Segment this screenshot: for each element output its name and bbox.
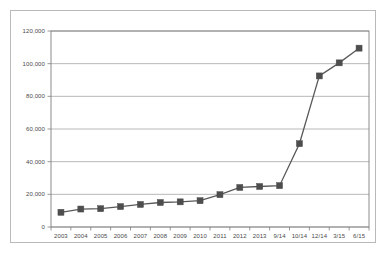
chart-figure: 020,00040,00060,00080,000100,000120,0002…: [0, 0, 387, 259]
x-axis-tick-label: 2011: [213, 233, 226, 239]
data-point-marker: [137, 201, 143, 207]
y-axis-tick-label: 80,000: [11, 93, 45, 99]
x-axis-tick-label: 9/14: [274, 233, 286, 239]
data-point-marker: [197, 198, 203, 204]
x-axis-tick-label: 2004: [74, 233, 88, 239]
x-axis-tick-label: 2008: [153, 233, 167, 239]
data-point-marker: [356, 45, 362, 51]
data-point-marker: [118, 204, 124, 210]
y-axis-tick-label: 100,000: [11, 61, 45, 67]
x-axis-tick-label: 12/14: [312, 233, 328, 239]
data-point-marker: [217, 192, 223, 198]
chart-frame: 020,00040,00060,00080,000100,000120,0002…: [10, 10, 376, 243]
x-axis-tick-label: 2003: [54, 233, 68, 239]
x-axis-tick-label: 2005: [94, 233, 108, 239]
x-axis-tick-label: 6/15: [353, 233, 365, 239]
data-point-marker: [177, 199, 183, 205]
data-point-marker: [237, 184, 243, 190]
x-axis-tick-label: 2009: [173, 233, 187, 239]
x-axis-tick-label: 2012: [233, 233, 247, 239]
data-point-marker: [277, 183, 283, 189]
data-point-marker: [157, 200, 163, 206]
data-point-marker: [336, 60, 342, 66]
data-point-marker: [257, 183, 263, 189]
data-point-marker: [296, 141, 302, 147]
y-axis-tick-label: 120,000: [11, 28, 45, 34]
y-axis-tick-label: 20,000: [11, 191, 45, 197]
data-point-marker: [78, 206, 84, 212]
data-point-marker: [316, 73, 322, 79]
x-axis-tick-label: 2007: [134, 233, 148, 239]
data-line-series-1: [61, 48, 359, 212]
x-axis-tick-label: 3/15: [333, 233, 345, 239]
y-axis-tick-label: 0: [11, 224, 45, 230]
x-axis-tick-label: 2006: [114, 233, 128, 239]
x-axis-tick-label: 2010: [193, 233, 207, 239]
y-axis-tick-label: 60,000: [11, 126, 45, 132]
data-point-marker: [98, 206, 104, 212]
data-point-marker: [58, 209, 64, 215]
chart-plot-area: [11, 11, 375, 242]
x-axis-tick-label: 2013: [253, 233, 267, 239]
x-axis-tick-label: 10/14: [292, 233, 308, 239]
y-axis-tick-label: 40,000: [11, 159, 45, 165]
